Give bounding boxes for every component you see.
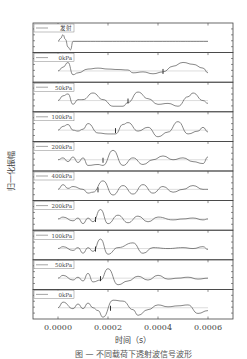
y-axis-title: 归一化振幅 xyxy=(6,151,16,191)
legend-label: 100kPa xyxy=(51,233,72,239)
x-tick-label: 0.0000 xyxy=(44,323,72,332)
panel-3: 100kPa xyxy=(33,112,233,142)
legend-label: 100kPa xyxy=(51,114,72,120)
x-axis-title: 时间（s） xyxy=(115,335,151,345)
stacked-waveform-chart: 发射0kPa50kPa100kPa200kPa400kPa200kPa100kP… xyxy=(0,0,247,359)
waveform-line xyxy=(58,122,208,137)
panel-8: 50kPa xyxy=(33,260,233,290)
waveform-line xyxy=(58,181,208,195)
panels-group: 发射0kPa50kPa100kPa200kPa400kPa200kPa100kP… xyxy=(33,23,233,319)
waveform-line xyxy=(58,239,208,254)
waveform-line xyxy=(58,209,208,223)
waveform-line xyxy=(58,269,208,285)
legend-label: 50kPa xyxy=(55,262,73,268)
waveform-line xyxy=(58,35,208,50)
panel-7: 100kPa xyxy=(33,230,233,260)
waveform-line xyxy=(58,150,208,165)
waveform-line xyxy=(58,92,208,106)
waveform-line xyxy=(58,62,208,74)
legend-label: 50kPa xyxy=(55,85,73,91)
legend-label: 400kPa xyxy=(51,173,72,179)
legend-label: 发射 xyxy=(60,24,72,32)
x-tick-label: 0.0004 xyxy=(144,323,172,332)
legend-label: 0kPa xyxy=(58,55,72,61)
panel-4: 200kPa xyxy=(33,141,233,171)
legend-label: 200kPa xyxy=(51,144,72,150)
x-tick-label: 0.0002 xyxy=(94,323,122,332)
panel-9: 0kPa xyxy=(33,289,233,319)
panel-2: 50kPa xyxy=(33,82,233,112)
figure-caption: 图 — 不同载荷下透射波信号波形 xyxy=(20,348,247,359)
panel-5: 400kPa xyxy=(33,171,233,201)
panel-0: 发射 xyxy=(33,23,233,53)
legend-label: 0kPa xyxy=(58,292,72,298)
panel-6: 200kPa xyxy=(33,201,233,231)
waveform-line xyxy=(58,300,208,317)
x-tick-label: 0.0006 xyxy=(194,323,222,332)
legend-label: 200kPa xyxy=(51,203,72,209)
panel-1: 0kPa xyxy=(33,53,233,83)
